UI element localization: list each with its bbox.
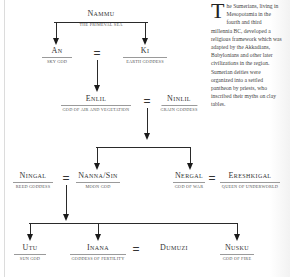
arrow-down-icon xyxy=(94,163,100,170)
node-name: Nanna/Sin xyxy=(76,171,120,181)
node-name: Nusku xyxy=(220,243,254,253)
branch-line-enlil xyxy=(96,147,191,148)
arrow-down-icon xyxy=(27,234,33,241)
genealogy-page: Nammu The Primeval Sea An Sky God = Ki E… xyxy=(0,0,290,277)
node-ki: Ki Earth Goddess xyxy=(123,46,167,65)
node-inana: Inana Goddess of Fertility xyxy=(70,243,126,262)
arrow-down-icon xyxy=(234,234,240,241)
marriage-symbol: = xyxy=(62,172,69,184)
arrow-down-icon xyxy=(94,85,100,92)
divider xyxy=(76,182,120,183)
node-name: Ningal xyxy=(13,171,53,181)
marriage-symbol: = xyxy=(143,95,150,107)
node-name: Enlil xyxy=(61,94,131,104)
arrow-down-icon xyxy=(142,38,148,45)
divider xyxy=(14,254,46,255)
node-title: Reed Goddess xyxy=(13,184,53,190)
arrow-down-icon xyxy=(144,133,150,140)
arrow-down-icon xyxy=(187,163,193,170)
connector-line xyxy=(147,108,148,136)
node-title: Grain Goddess xyxy=(160,107,197,113)
divider xyxy=(173,182,205,183)
node-ningal: Ningal Reed Goddess xyxy=(13,171,53,190)
divider xyxy=(42,57,72,58)
connector-line xyxy=(66,185,67,217)
connector-line xyxy=(97,60,98,88)
node-name: Inana xyxy=(70,243,126,253)
node-nanna-sin: Nanna/Sin Moon God xyxy=(76,171,120,190)
node-nammu: Nammu The Primeval Sea xyxy=(79,9,122,28)
divider xyxy=(220,254,254,255)
divider xyxy=(61,105,131,106)
node-name: Nammu xyxy=(79,9,122,19)
node-title: Goddess of Fertility xyxy=(70,256,126,262)
node-enlil: Enlil God of Air and Vegetation xyxy=(61,94,131,113)
arrow-down-icon xyxy=(63,214,69,221)
divider xyxy=(161,105,197,106)
marriage-symbol: = xyxy=(132,243,139,255)
node-name: Nergal xyxy=(173,171,205,181)
node-nusku: Nusku God of Fire xyxy=(220,243,254,262)
node-an: An Sky God xyxy=(42,46,72,65)
node-title: God of Air and Vegetation xyxy=(61,107,131,113)
divider xyxy=(70,254,126,255)
node-dumuzi: Dumuzi xyxy=(160,243,188,253)
node-name: Ninlil xyxy=(160,94,197,104)
marriage-symbol: = xyxy=(93,47,100,59)
arrow-down-icon xyxy=(53,38,59,45)
node-name: Ki xyxy=(123,46,167,56)
node-name: An xyxy=(42,46,72,56)
node-title: Queen of Underworld xyxy=(220,184,280,190)
node-title: Moon God xyxy=(76,184,120,190)
intro-text: T he Sumerians, living in Mesopotamia in… xyxy=(211,2,283,109)
node-title: God of War xyxy=(173,184,205,190)
node-name: Ereshkigal xyxy=(220,171,280,181)
page-edge xyxy=(4,0,5,277)
marriage-symbol: = xyxy=(208,172,215,184)
node-utu: Utu Sun God xyxy=(14,243,46,262)
node-name: Utu xyxy=(14,243,46,253)
drop-cap: T xyxy=(211,2,224,20)
node-nergal: Nergal God of War xyxy=(173,171,205,190)
divider xyxy=(123,57,167,58)
branch-line-nammu xyxy=(54,22,148,23)
node-title: Earth Goddess xyxy=(123,59,167,65)
node-ereshkigal: Ereshkigal Queen of Underworld xyxy=(220,171,280,190)
node-ninlil: Ninlil Grain Goddess xyxy=(160,94,197,113)
node-title: God of Fire xyxy=(220,256,254,262)
node-title: Sky God xyxy=(42,59,72,65)
node-name: Dumuzi xyxy=(160,243,188,253)
divider xyxy=(220,182,280,183)
divider xyxy=(13,182,53,183)
branch-line-nanna xyxy=(29,223,238,224)
node-title: Sun God xyxy=(14,256,46,262)
arrow-down-icon xyxy=(95,234,101,241)
